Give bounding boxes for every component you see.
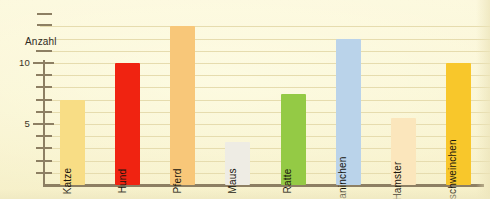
- bar: Pferd: [170, 26, 195, 185]
- bar-label: Ratte: [283, 169, 293, 194]
- bar-label: Hamster: [393, 161, 403, 199]
- bar-label: Katze: [63, 168, 73, 195]
- bar-chart: Anzahl 510 KatzeHundPferdMausRatteKaninc…: [0, 0, 490, 199]
- bar: Hamster: [391, 118, 416, 185]
- bar: Maus: [225, 142, 250, 185]
- bar: Kaninchen: [336, 39, 361, 185]
- bar: Meerschweinchen: [446, 63, 471, 185]
- bar: Hund: [115, 63, 140, 185]
- bar-label: Hund: [118, 169, 128, 194]
- bar-label: Maus: [228, 168, 238, 193]
- plot-area: KatzeHundPferdMausRatteKaninchenHamsterM…: [0, 0, 490, 199]
- bar: Katze: [60, 100, 85, 185]
- bar-label: Kaninchen: [338, 156, 348, 199]
- bar-label: Meerschweinchen: [448, 139, 458, 199]
- bar: Ratte: [281, 94, 306, 186]
- bar-label: Pferd: [173, 169, 183, 194]
